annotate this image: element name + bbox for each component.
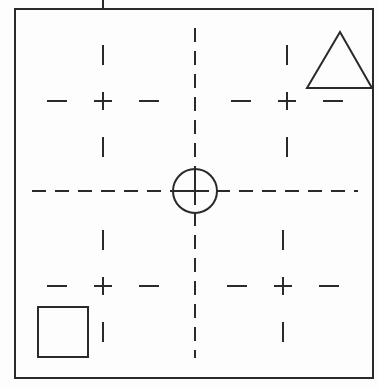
canvas-background xyxy=(0,0,379,389)
diagram-canvas xyxy=(0,0,379,389)
alignment-target-diagram xyxy=(0,0,379,389)
